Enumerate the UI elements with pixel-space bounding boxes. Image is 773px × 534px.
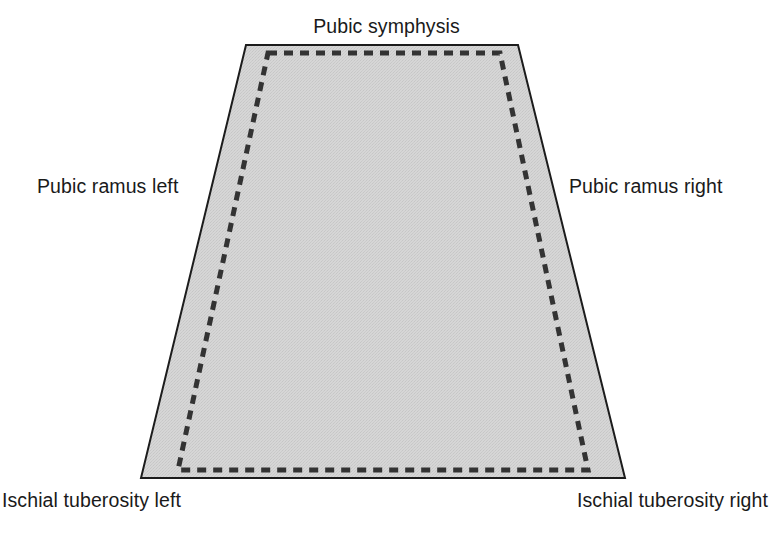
label-ischial-tuberosity-left: Ischial tuberosity left (2, 489, 181, 512)
pelvic-outlet-figure: Pubic symphysis Pubic ramus left Pubic r… (0, 0, 773, 534)
label-ischial-tuberosity-right: Ischial tuberosity right (577, 489, 768, 512)
label-pubic-ramus-right: Pubic ramus right (569, 175, 722, 198)
pelvic-outlet-outline (141, 45, 625, 478)
pelvic-outlet-diagram (0, 0, 773, 534)
label-pubic-symphysis: Pubic symphysis (0, 15, 773, 38)
label-pubic-ramus-left: Pubic ramus left (37, 175, 178, 198)
